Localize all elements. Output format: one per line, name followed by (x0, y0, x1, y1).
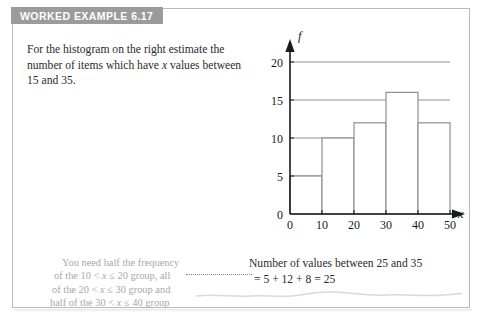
page-edge-shadow (14, 309, 472, 312)
x-tick-label-30: 30 (380, 218, 392, 232)
dotted-leader-line (186, 274, 252, 275)
y-tick-label-0: 0 (277, 208, 283, 222)
x-tick-label-40: 40 (412, 218, 424, 232)
question-text: For the histogram on the right estimate … (27, 42, 255, 89)
question-line-2-pre: number of items which have (27, 59, 162, 72)
hint-note: You need half the frequency of the 10 < … (50, 256, 190, 310)
hint-note-line-4-a: half of the 30 < (50, 297, 117, 308)
bar-0-10 (290, 176, 322, 214)
y-axis-arrow (285, 39, 294, 52)
y-axis-label: f (298, 29, 303, 43)
hint-note-line-3: of the 20 < x ≤ 30 group and (50, 283, 190, 296)
x-tick-label-10: 10 (316, 218, 328, 232)
question-line-2-post: values between (167, 59, 241, 72)
hint-note-line-4-b: ≤ 40 group (121, 297, 169, 308)
bar-20-30 (354, 123, 386, 214)
chart-bars (290, 92, 450, 214)
x-tick-label-20: 20 (348, 218, 360, 232)
question-line-2: number of items which have x values betw… (27, 58, 255, 74)
y-tick-label-5: 5 (277, 170, 283, 184)
histogram-chart: f x 05101520 01020304050 (258, 26, 470, 232)
bar-30-40 (386, 92, 418, 214)
x-tick-label-0: 0 (287, 218, 293, 232)
question-line-3: 15 and 35. (27, 73, 255, 89)
hint-note-line-3-b: ≤ 30 group and (105, 284, 171, 295)
y-tick-label-10: 10 (271, 132, 283, 146)
hint-note-line-3-a: of the 20 < (52, 284, 100, 295)
hint-note-line-2-b: ≤ 20 group, all (107, 270, 171, 281)
answer-line-1: Number of values between 25 and 35 (249, 256, 459, 272)
hint-note-line-2-a: of the 10 < (54, 270, 102, 281)
question-line-1: For the histogram on the right estimate … (27, 42, 255, 58)
worked-example-header: WORKED EXAMPLE 6.17 (11, 7, 163, 24)
y-tick-label-20: 20 (271, 56, 283, 70)
hint-note-line-2: of the 10 < x ≤ 20 group, all (50, 269, 190, 282)
answer-block: Number of values between 25 and 35 = 5 +… (249, 256, 459, 287)
answer-line-2: = 5 + 12 + 8 = 25 (249, 272, 459, 288)
worked-example-title: WORKED EXAMPLE 6.17 (20, 10, 153, 22)
chart-x-tick-labels: 01020304050 (287, 218, 456, 232)
y-tick-label-15: 15 (271, 94, 283, 108)
hint-note-line-1: You need half the frequency (50, 256, 190, 269)
x-tick-label-50: 50 (444, 218, 456, 232)
hint-note-line-4: half of the 30 < x ≤ 40 group (50, 296, 190, 309)
bar-40-50 (418, 123, 450, 214)
histogram-svg: f x 05101520 01020304050 (258, 26, 470, 232)
bar-10-20 (322, 138, 354, 214)
scan-artifact-squiggle (196, 288, 462, 302)
x-axis-label: x (457, 207, 464, 221)
